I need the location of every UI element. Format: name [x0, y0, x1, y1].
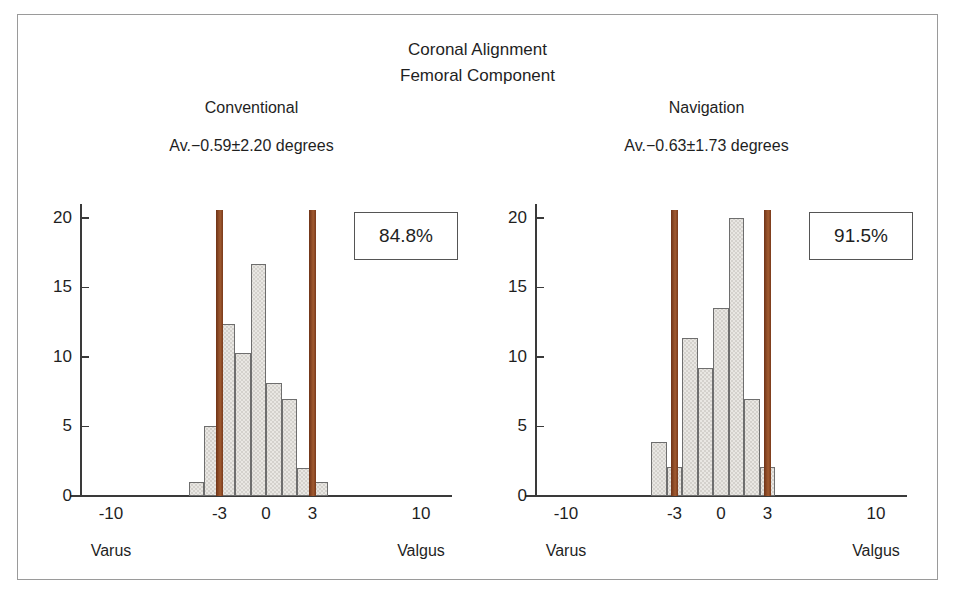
- panel-title-conventional: Conventional: [24, 99, 479, 117]
- y-tick-conventional-10: [80, 356, 89, 358]
- reference-line-navigation-minus3: [671, 210, 678, 496]
- figure-frame: Coronal Alignment Femoral Component Conv…: [17, 14, 938, 580]
- histogram-bar: [282, 399, 298, 496]
- y-tick-navigation-15: [535, 287, 544, 289]
- histogram-bar: [266, 383, 282, 496]
- y-tick-conventional-15: [80, 287, 89, 289]
- axis-end-label-navigation-right: Valgus: [831, 542, 921, 560]
- panel-stats-navigation: Av.−0.63±1.73 degrees: [479, 137, 934, 155]
- axis-end-label-conventional-right: Valgus: [376, 542, 466, 560]
- y-tick-label-navigation-0: 0: [481, 487, 527, 504]
- x-tick-label-conventional-0: -10: [88, 504, 134, 524]
- x-tick-label-navigation-3: 3: [745, 504, 791, 524]
- annotation-box-conventional: 84.8%: [354, 212, 458, 260]
- reference-line-conventional-minus3: [216, 210, 223, 496]
- y-tick-label-navigation-15: 15: [481, 278, 527, 295]
- x-tick-label-navigation-2: 0: [698, 504, 744, 524]
- y-tick-label-conventional-15: 15: [26, 278, 72, 295]
- x-tick-label-conventional-1: -3: [197, 504, 243, 524]
- panel-conventional: Conventional Av.−0.59±2.20 degrees 05101…: [24, 99, 479, 579]
- y-axis-navigation: [535, 204, 537, 496]
- reference-line-conventional-plus3: [309, 210, 316, 496]
- axis-end-label-conventional-left: Varus: [66, 542, 156, 560]
- histogram-bar: [235, 353, 251, 496]
- histogram-bar: [251, 264, 267, 496]
- y-tick-conventional-20: [80, 217, 89, 219]
- histogram-bar: [698, 368, 714, 496]
- y-tick-label-navigation-20: 20: [481, 209, 527, 226]
- figure-title: Coronal Alignment Femoral Component: [18, 37, 937, 89]
- y-tick-navigation-0: [535, 495, 544, 497]
- y-tick-conventional-0: [80, 495, 89, 497]
- histogram-bar: [651, 442, 667, 496]
- y-tick-label-conventional-10: 10: [26, 348, 72, 365]
- y-tick-navigation-10: [535, 356, 544, 358]
- x-tick-label-conventional-2: 0: [243, 504, 289, 524]
- x-tick-label-navigation-0: -10: [543, 504, 589, 524]
- x-tick-label-conventional-4: 10: [398, 504, 444, 524]
- figure-title-line-2: Femoral Component: [18, 63, 937, 89]
- y-tick-label-navigation-10: 10: [481, 348, 527, 365]
- figure-title-line-1: Coronal Alignment: [18, 37, 937, 63]
- y-tick-conventional-5: [80, 426, 89, 428]
- histogram-bar: [744, 399, 760, 496]
- caption-partial: [24, 589, 544, 601]
- reference-line-navigation-plus3: [764, 210, 771, 496]
- y-axis-conventional: [80, 204, 82, 496]
- panel-stats-conventional: Av.−0.59±2.20 degrees: [24, 137, 479, 155]
- annotation-box-navigation: 91.5%: [809, 212, 913, 260]
- y-tick-label-navigation-5: 5: [481, 417, 527, 434]
- histogram-bar: [713, 308, 729, 496]
- y-tick-label-conventional-20: 20: [26, 209, 72, 226]
- histogram-bar: [729, 218, 745, 496]
- histogram-bar: [682, 338, 698, 497]
- histogram-bar: [189, 482, 205, 496]
- y-tick-navigation-5: [535, 426, 544, 428]
- axis-end-label-navigation-left: Varus: [521, 542, 611, 560]
- x-tick-label-conventional-3: 3: [290, 504, 336, 524]
- x-tick-label-navigation-4: 10: [853, 504, 899, 524]
- x-tick-label-navigation-1: -3: [652, 504, 698, 524]
- y-tick-label-conventional-0: 0: [26, 487, 72, 504]
- y-tick-label-conventional-5: 5: [26, 417, 72, 434]
- panel-navigation: Navigation Av.−0.63±1.73 degrees 0510152…: [479, 99, 934, 579]
- panel-title-navigation: Navigation: [479, 99, 934, 117]
- y-tick-navigation-20: [535, 217, 544, 219]
